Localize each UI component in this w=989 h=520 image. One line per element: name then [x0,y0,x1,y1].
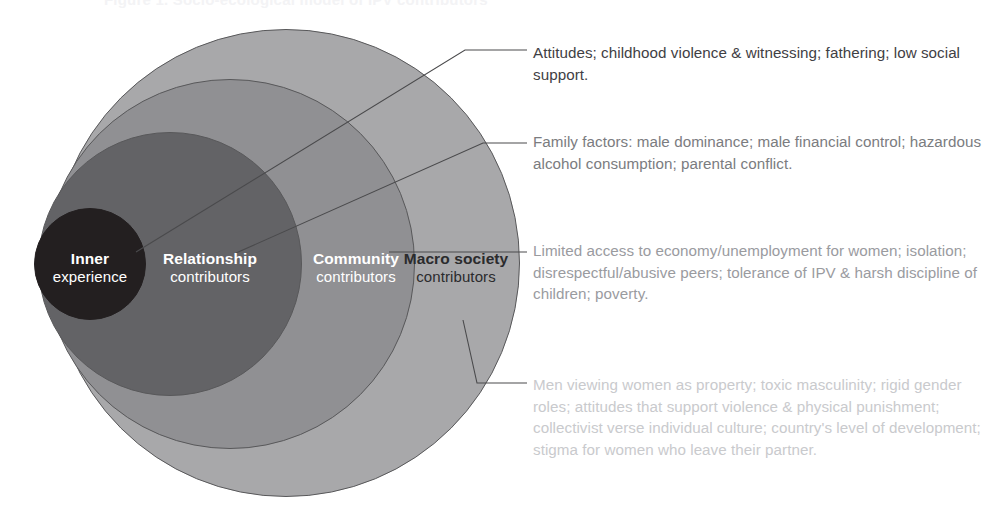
annotation-inner-experience: Attitudes; childhood violence & witnessi… [533,42,985,85]
label-macro-subtitle: contributors [388,268,524,286]
annotation-relationship: Family factors: male dominance; male fin… [533,131,985,174]
label-macro-society: Macro society contributors [388,250,524,286]
label-macro-title: Macro society [388,250,524,268]
label-relationship: Relationship contributors [134,250,286,286]
annotation-community: Limited access to economy/unemployment f… [533,240,985,305]
annotation-macro-society: Men viewing women as property; toxic mas… [533,374,985,460]
label-relationship-title: Relationship [134,250,286,268]
socioecological-model-figure: Figure 1. Socio-ecological model of IPV … [0,0,989,520]
label-relationship-subtitle: contributors [134,268,286,286]
